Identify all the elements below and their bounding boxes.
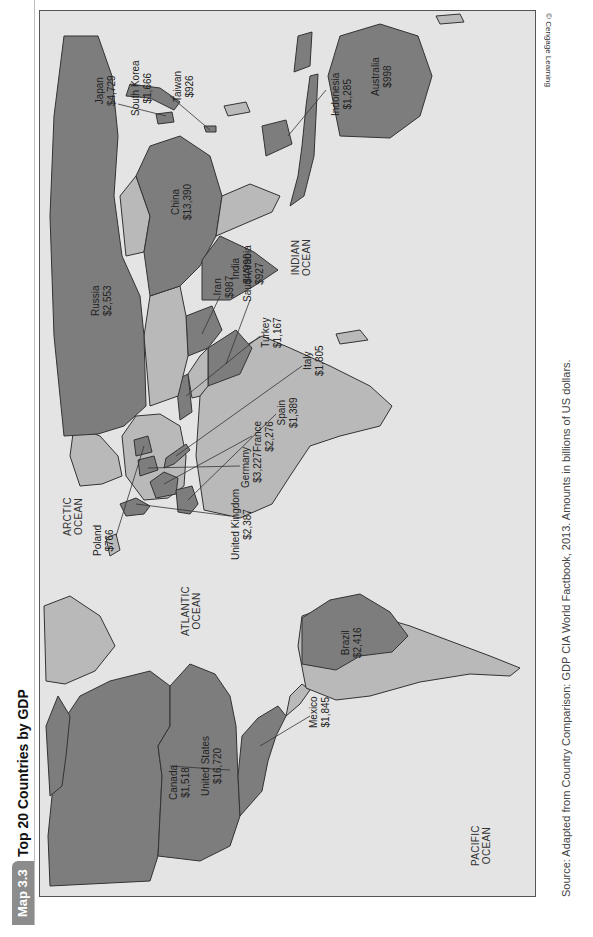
land-united-kingdom: [120, 498, 150, 516]
land-united-states: [158, 664, 240, 861]
land-mexico: [238, 706, 286, 816]
label-brazil: Brazil$2,416: [340, 627, 364, 658]
land-central-america: [286, 684, 310, 716]
ocean-label-atlantic: ATLANTICOCEAN: [180, 586, 202, 636]
map-title: Top 20 Countries by GDP: [12, 689, 34, 857]
land-philippines: [224, 102, 250, 116]
label-mexico: Mexico$1,845: [308, 696, 332, 728]
label-germany: Germany$3,227: [240, 447, 264, 488]
copyright-notice: © Cengage Learning: [544, 13, 553, 87]
label-indonesia: Indonesia$1,285: [330, 73, 354, 116]
map-header: Map 3.3 Top 20 Countries by GDP: [0, 0, 36, 937]
label-south-korea: South Korea$1,666: [130, 60, 154, 116]
header-divider: [34, 0, 35, 925]
land-borneo: [262, 120, 292, 156]
label-russia: Russia$2,553: [90, 285, 114, 316]
ocean-label-indian: INDIANOCEAN: [290, 239, 312, 276]
label-spain: Spain$1,389: [276, 397, 300, 428]
land-indonesia: [290, 74, 318, 206]
label-canada: Canada$1,518: [168, 765, 192, 800]
label-united-kingdom: United Kingdom$2,387: [230, 489, 254, 560]
label-china: China$13,390: [170, 184, 194, 220]
map-page: Map 3.3 Top 20 Countries by GDP: [0, 0, 593, 937]
label-turkey: Turkey$1,167: [260, 317, 284, 348]
world-map-shapes: [40, 11, 535, 896]
label-australia: Australia$998: [370, 57, 394, 96]
ocean-label-arctic: ARCTICOCEAN: [62, 497, 84, 536]
map-number-badge: Map 3.3: [12, 861, 34, 925]
label-poland: Poland$766: [92, 525, 116, 556]
land-madagascar: [336, 330, 368, 344]
world-map: ARCTICOCEAN ATLANTICOCEAN PACIFICOCEAN I…: [39, 10, 536, 897]
land-canada: [48, 671, 170, 886]
land-greenland: [44, 596, 115, 684]
label-taiwan: Taiwan$926: [172, 71, 196, 102]
ocean-label-pacific: PACIFICOCEAN: [470, 825, 492, 866]
land-southeast-asia: [216, 184, 280, 236]
label-france: France$2,276: [252, 421, 276, 452]
land-middle-east: [188, 348, 208, 398]
label-india: India$4,990: [230, 253, 254, 284]
land-new-zealand: [436, 14, 464, 24]
source-note: Source: Adapted from Country Comparison:…: [560, 359, 572, 897]
label-united-states: United States$16,720: [200, 736, 224, 796]
label-italy: Italy$1,805: [302, 345, 326, 376]
label-japan: Japan$4,729: [94, 75, 118, 106]
land-papua: [294, 32, 312, 72]
